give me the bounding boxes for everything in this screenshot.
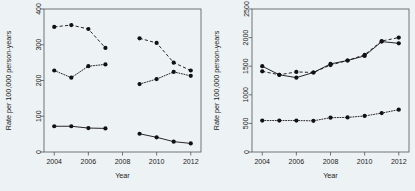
data-point-marker [328, 63, 332, 67]
y-tick-label: 300 [35, 39, 42, 51]
series-series-a-solid [260, 40, 401, 80]
chart-panel-right: 0500100015002000250020042006200820102012… [208, 0, 415, 191]
x-axis: 20042006200820102012 [46, 152, 198, 165]
data-point-marker [260, 64, 264, 68]
data-point-marker [137, 82, 141, 86]
data-point-marker [294, 70, 298, 74]
series-line-segment [262, 38, 399, 75]
data-point-marker [397, 41, 401, 45]
data-point-marker [103, 126, 107, 130]
data-point-marker [137, 36, 141, 40]
data-point-marker [52, 68, 56, 72]
data-point-marker [345, 58, 349, 62]
x-axis: 20042006200820102012 [254, 152, 406, 165]
data-point-marker [345, 115, 349, 119]
data-point-marker [172, 70, 176, 74]
series-series-a-dashed [52, 23, 193, 73]
y-tick-label: 2000 [243, 30, 250, 46]
data-point-marker [380, 39, 384, 43]
data-point-marker [260, 69, 264, 73]
series-series-b-dotted [52, 62, 193, 86]
data-point-marker [397, 108, 401, 112]
x-tick-label: 2008 [323, 158, 339, 165]
x-tick-label: 2010 [357, 158, 373, 165]
x-tick-label: 2012 [183, 158, 199, 165]
chart-right-svg: 0500100015002000250020042006200820102012… [208, 0, 415, 191]
plot-frame [44, 9, 201, 152]
data-point-marker [189, 68, 193, 72]
series-line-segment [140, 72, 191, 84]
data-point-marker [380, 111, 384, 115]
figure-container: 010020030040020042006200820102012YearRat… [0, 0, 415, 191]
y-axis: 05001000150020002500 [243, 1, 253, 154]
y-tick-label: 1000 [243, 87, 250, 103]
data-point-marker [52, 25, 56, 29]
data-point-marker [363, 114, 367, 118]
x-axis-title: Year [115, 171, 130, 180]
data-point-marker [311, 70, 315, 74]
y-tick-label: 2500 [243, 1, 250, 17]
x-tick-label: 2012 [391, 158, 407, 165]
chart-panel-left: 010020030040020042006200820102012YearRat… [0, 0, 207, 191]
data-point-marker [86, 126, 90, 130]
series-line-segment [140, 134, 191, 144]
data-point-marker [189, 74, 193, 78]
data-point-marker [294, 118, 298, 122]
series-line-segment [54, 64, 105, 77]
plot-frame [252, 9, 409, 152]
data-point-marker [86, 64, 90, 68]
x-tick-label: 2006 [81, 158, 97, 165]
data-point-marker [103, 46, 107, 50]
x-tick-label: 2004 [254, 158, 270, 165]
data-point-marker [311, 119, 315, 123]
series-series-c-dotted [260, 108, 401, 123]
y-tick-label: 0 [35, 150, 42, 154]
series-line-segment [262, 42, 399, 78]
data-point-marker [277, 118, 281, 122]
data-point-marker [69, 23, 73, 27]
data-point-marker [397, 36, 401, 40]
data-point-marker [155, 41, 159, 45]
data-point-marker [363, 53, 367, 57]
series-line-segment [54, 25, 105, 48]
data-point-marker [103, 62, 107, 66]
data-point-marker [172, 140, 176, 144]
data-point-marker [137, 132, 141, 136]
data-point-marker [155, 77, 159, 81]
data-point-marker [86, 27, 90, 31]
data-point-marker [69, 124, 73, 128]
x-tick-label: 2010 [149, 158, 165, 165]
data-point-marker [189, 141, 193, 145]
series-series-b-dashed [260, 36, 401, 77]
series-line-segment [54, 126, 105, 128]
series-series-c-solid [52, 124, 193, 145]
y-tick-label: 500 [243, 117, 250, 129]
data-point-marker [155, 135, 159, 139]
series-line-segment [140, 38, 191, 70]
data-point-marker [172, 61, 176, 65]
y-axis-title: Rate per 100,000 person-years [4, 30, 13, 130]
x-tick-label: 2008 [115, 158, 131, 165]
x-tick-label: 2004 [46, 158, 62, 165]
y-axis: 0100200300400 [35, 3, 45, 154]
y-tick-label: 200 [35, 75, 42, 87]
y-tick-label: 1500 [243, 58, 250, 74]
data-point-marker [328, 116, 332, 120]
y-axis-title: Rate per 100,000 person-years [212, 30, 221, 130]
data-point-marker [69, 76, 73, 80]
chart-left-svg: 010020030040020042006200820102012YearRat… [0, 0, 207, 191]
x-tick-label: 2006 [289, 158, 305, 165]
data-point-marker [294, 76, 298, 80]
y-tick-label: 0 [243, 150, 250, 154]
data-point-marker [277, 73, 281, 77]
y-tick-label: 400 [35, 3, 42, 15]
x-axis-title: Year [323, 171, 338, 180]
data-point-marker [260, 118, 264, 122]
y-tick-label: 100 [35, 110, 42, 122]
data-point-marker [52, 124, 56, 128]
